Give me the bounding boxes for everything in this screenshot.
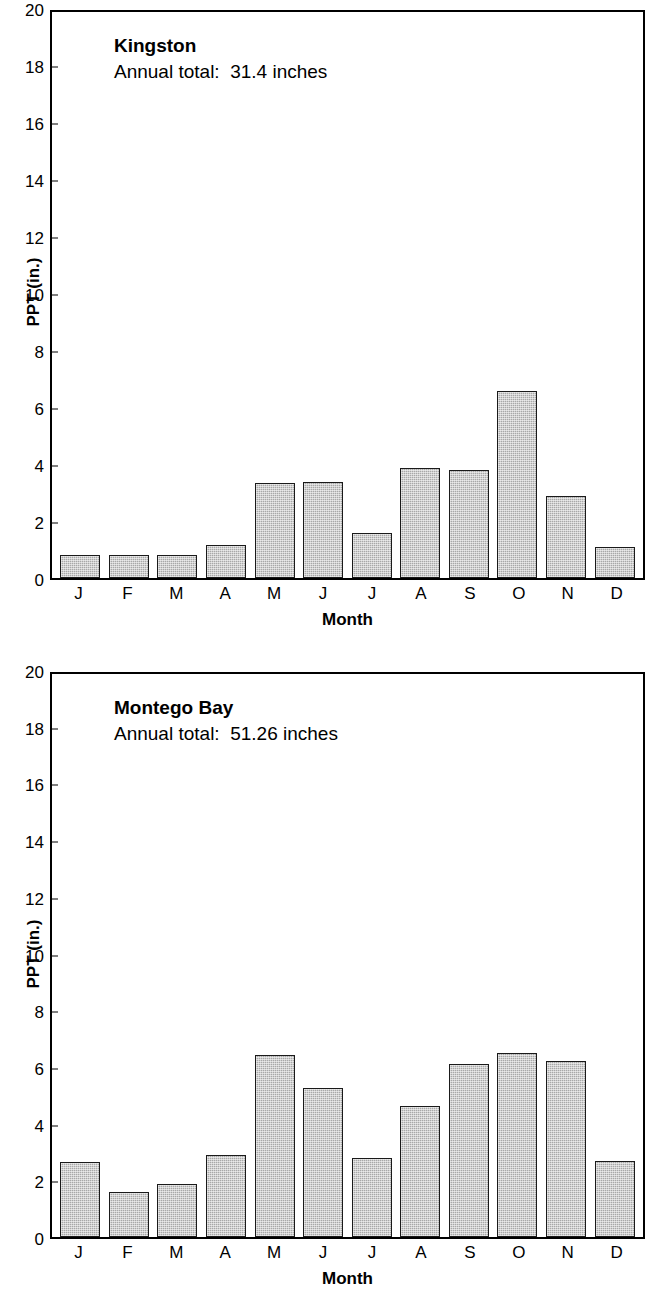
x-axis-tick-3: A	[201, 1243, 250, 1263]
x-axis-label: Month	[50, 1269, 645, 1289]
x-axis-tick-5: J	[299, 1243, 348, 1263]
bar-slot-M-2	[153, 12, 202, 578]
bar-slot-A-7	[396, 12, 445, 578]
y-axis-tick-0: 0	[0, 1231, 44, 1248]
y-axis-tick-8: 8	[0, 1004, 44, 1021]
bar-slot-J-6	[347, 12, 396, 578]
bar-slot-O-9	[493, 12, 542, 578]
bar	[400, 468, 440, 578]
bar-slot-N-10	[542, 12, 591, 578]
y-axis-tick-10: 10	[0, 287, 44, 304]
bar	[109, 555, 149, 578]
x-axis-tick-5: J	[299, 584, 348, 604]
y-axis-tick-16: 16	[0, 116, 44, 133]
bar	[157, 555, 197, 578]
bar-slot-S-8	[445, 12, 494, 578]
x-axis-tick-1: F	[103, 584, 152, 604]
x-axis-tick-7: A	[396, 1243, 445, 1263]
y-axis-tick-mark	[50, 1012, 58, 1013]
y-axis-tick-8: 8	[0, 344, 44, 361]
bar	[352, 533, 392, 578]
x-axis-tick-11: D	[592, 584, 641, 604]
y-axis-tick-10: 10	[0, 947, 44, 964]
y-axis-tick-14: 14	[0, 834, 44, 851]
y-axis-tick-mark	[50, 955, 58, 956]
y-axis-tick-mark	[50, 1125, 58, 1126]
bar-slot-N-10	[542, 674, 591, 1237]
y-axis-tick-mark	[50, 466, 58, 467]
bar	[497, 1053, 537, 1237]
x-axis-tick-0: J	[54, 584, 103, 604]
bar-slot-M-4	[250, 12, 299, 578]
bar	[206, 545, 246, 578]
y-axis-tick-mark	[50, 785, 58, 786]
figure-container: PPT (in.) 02468101214161820 Kingston Ann…	[0, 0, 647, 1289]
y-axis-tick-0: 0	[0, 572, 44, 589]
x-axis-tick-0: J	[54, 1243, 103, 1263]
bar	[595, 1161, 635, 1237]
y-axis-tick-18: 18	[0, 720, 44, 737]
bar	[157, 1184, 197, 1237]
y-axis-tick-20: 20	[0, 2, 44, 19]
y-axis-tick-20: 20	[0, 664, 44, 681]
bar-slot-D-11	[590, 12, 639, 578]
bar	[449, 470, 489, 578]
x-axis-tick-9: O	[494, 584, 543, 604]
x-axis-tick-3: A	[201, 584, 250, 604]
bar-slot-F-1	[105, 674, 154, 1237]
x-axis-tick-4: M	[250, 1243, 299, 1263]
bar	[546, 496, 586, 578]
bar-slot-M-2	[153, 674, 202, 1237]
y-axis-tick-2: 2	[0, 515, 44, 532]
bar	[352, 1158, 392, 1237]
bar-series-montego-bay	[52, 674, 643, 1237]
bar	[255, 483, 295, 578]
bar	[595, 547, 635, 578]
y-axis-tick-6: 6	[0, 401, 44, 418]
plot-area-kingston: Kingston Annual total: 31.4 inches	[50, 10, 645, 580]
x-axis-tick-1: F	[103, 1243, 152, 1263]
y-axis-tick-mark	[50, 238, 58, 239]
bar	[497, 391, 537, 578]
bar	[546, 1061, 586, 1237]
x-axis-tick-10: N	[543, 584, 592, 604]
y-axis-tick-2: 2	[0, 1174, 44, 1191]
x-axis-tick-9: O	[494, 1243, 543, 1263]
x-axis-tick-2: M	[152, 584, 201, 604]
y-axis-tick-mark	[50, 1068, 58, 1069]
x-axis-tick-6: J	[348, 584, 397, 604]
climograph-panel-kingston: PPT (in.) 02468101214161820 Kingston Ann…	[0, 0, 647, 635]
x-axis-label: Month	[50, 610, 645, 630]
bar-slot-J-0	[56, 674, 105, 1237]
bar	[400, 1106, 440, 1237]
y-axis-tick-6: 6	[0, 1060, 44, 1077]
bar	[60, 555, 100, 578]
x-axis-tick-8: S	[445, 1243, 494, 1263]
bar	[109, 1192, 149, 1237]
y-axis-tick-4: 4	[0, 458, 44, 475]
y-axis-tick-mark	[50, 352, 58, 353]
bar-slot-F-1	[105, 12, 154, 578]
y-axis-tick-4: 4	[0, 1117, 44, 1134]
x-axis-tick-11: D	[592, 1243, 641, 1263]
y-axis-tick-mark	[50, 842, 58, 843]
bar-slot-A-3	[202, 12, 251, 578]
y-axis-tick-14: 14	[0, 173, 44, 190]
y-axis-tick-12: 12	[0, 230, 44, 247]
x-axis-tick-8: S	[445, 584, 494, 604]
bar	[206, 1155, 246, 1237]
y-axis-tick-mark	[50, 409, 58, 410]
bar-slot-A-3	[202, 674, 251, 1237]
bar-slot-J-6	[347, 674, 396, 1237]
bar	[449, 1064, 489, 1237]
y-axis-tick-mark	[50, 1182, 58, 1183]
y-axis-tick-mark	[50, 728, 58, 729]
bar-slot-D-11	[590, 674, 639, 1237]
bar	[303, 482, 343, 578]
x-axis-tick-10: N	[543, 1243, 592, 1263]
plot-area-montego-bay: Montego Bay Annual total: 51.26 inches	[50, 672, 645, 1239]
bar-slot-J-5	[299, 674, 348, 1237]
y-axis-tick-12: 12	[0, 890, 44, 907]
bar	[303, 1088, 343, 1237]
bar-slot-J-0	[56, 12, 105, 578]
